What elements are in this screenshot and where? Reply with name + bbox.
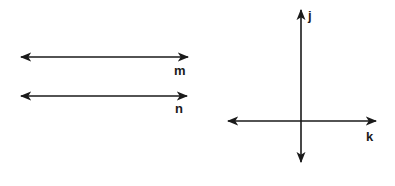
line-k-label: k [366, 129, 374, 144]
line-j-label: j [307, 8, 312, 23]
line-k: k [228, 121, 376, 144]
line-m-label: m [174, 63, 186, 78]
line-n-label: n [175, 101, 183, 116]
lines-diagram: m n j k [0, 0, 395, 186]
line-j: j [301, 8, 312, 162]
line-m: m [21, 57, 188, 78]
line-n: n [21, 96, 187, 116]
